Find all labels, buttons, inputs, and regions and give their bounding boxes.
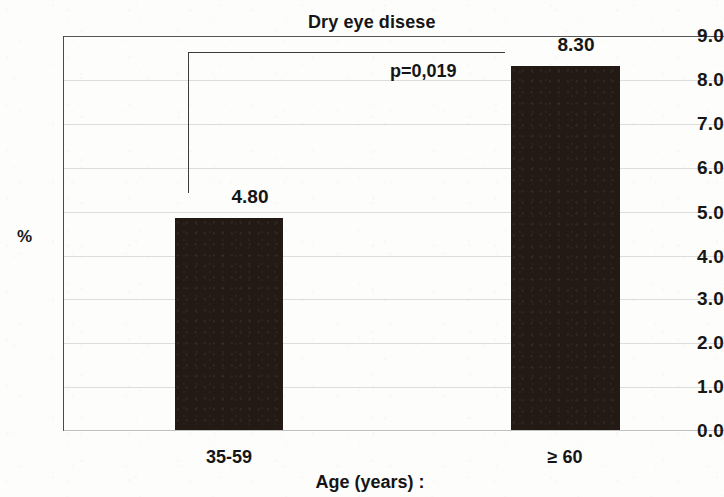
y-tick-label-0: 0.0 bbox=[672, 420, 724, 442]
bar-value-35-59: 4.80 bbox=[232, 186, 269, 208]
p-value-label: p=0,019 bbox=[390, 61, 457, 82]
y-tick-label-3: 3.0 bbox=[672, 288, 724, 310]
x-tick-label-60-plus: ≥ 60 bbox=[548, 447, 583, 468]
x-tick-label-35-59: 35-59 bbox=[206, 447, 252, 468]
y-tick-label-8: 8.0 bbox=[672, 69, 724, 91]
y-axis-line bbox=[63, 36, 64, 431]
gridline-3 bbox=[64, 299, 724, 300]
gridline-9 bbox=[64, 36, 724, 37]
y-tick-label-6: 6.0 bbox=[672, 157, 724, 179]
bar-60-plus bbox=[511, 66, 620, 430]
gridline-7 bbox=[64, 124, 724, 125]
chart-title: Dry eye disese bbox=[308, 12, 436, 33]
y-tick-label-1: 1.0 bbox=[672, 376, 724, 398]
gridline-6 bbox=[64, 168, 724, 169]
significance-bracket-left-leg bbox=[188, 52, 189, 193]
x-axis-title: Age (years) : bbox=[315, 472, 424, 493]
bar-35-59 bbox=[175, 218, 283, 430]
y-tick-label-2: 2.0 bbox=[672, 332, 724, 354]
gridline-2 bbox=[64, 343, 724, 344]
chart-screenshot: Dry eye disese 9.0 8.0 7.0 6.0 5.0 4.0 3… bbox=[0, 0, 724, 497]
y-tick-label-7: 7.0 bbox=[672, 113, 724, 135]
gridline-1 bbox=[64, 387, 724, 388]
y-axis-title: % bbox=[17, 227, 32, 247]
gridline-5 bbox=[64, 212, 724, 213]
significance-bracket-horizontal bbox=[188, 52, 505, 53]
y-tick-label-4: 4.0 bbox=[672, 246, 724, 268]
gridline-4 bbox=[64, 256, 724, 257]
y-tick-label-5: 5.0 bbox=[672, 202, 724, 224]
bar-value-60-plus: 8.30 bbox=[558, 34, 595, 56]
y-tick-label-9: 9.0 bbox=[672, 25, 724, 47]
gridline-0-baseline bbox=[63, 430, 724, 431]
